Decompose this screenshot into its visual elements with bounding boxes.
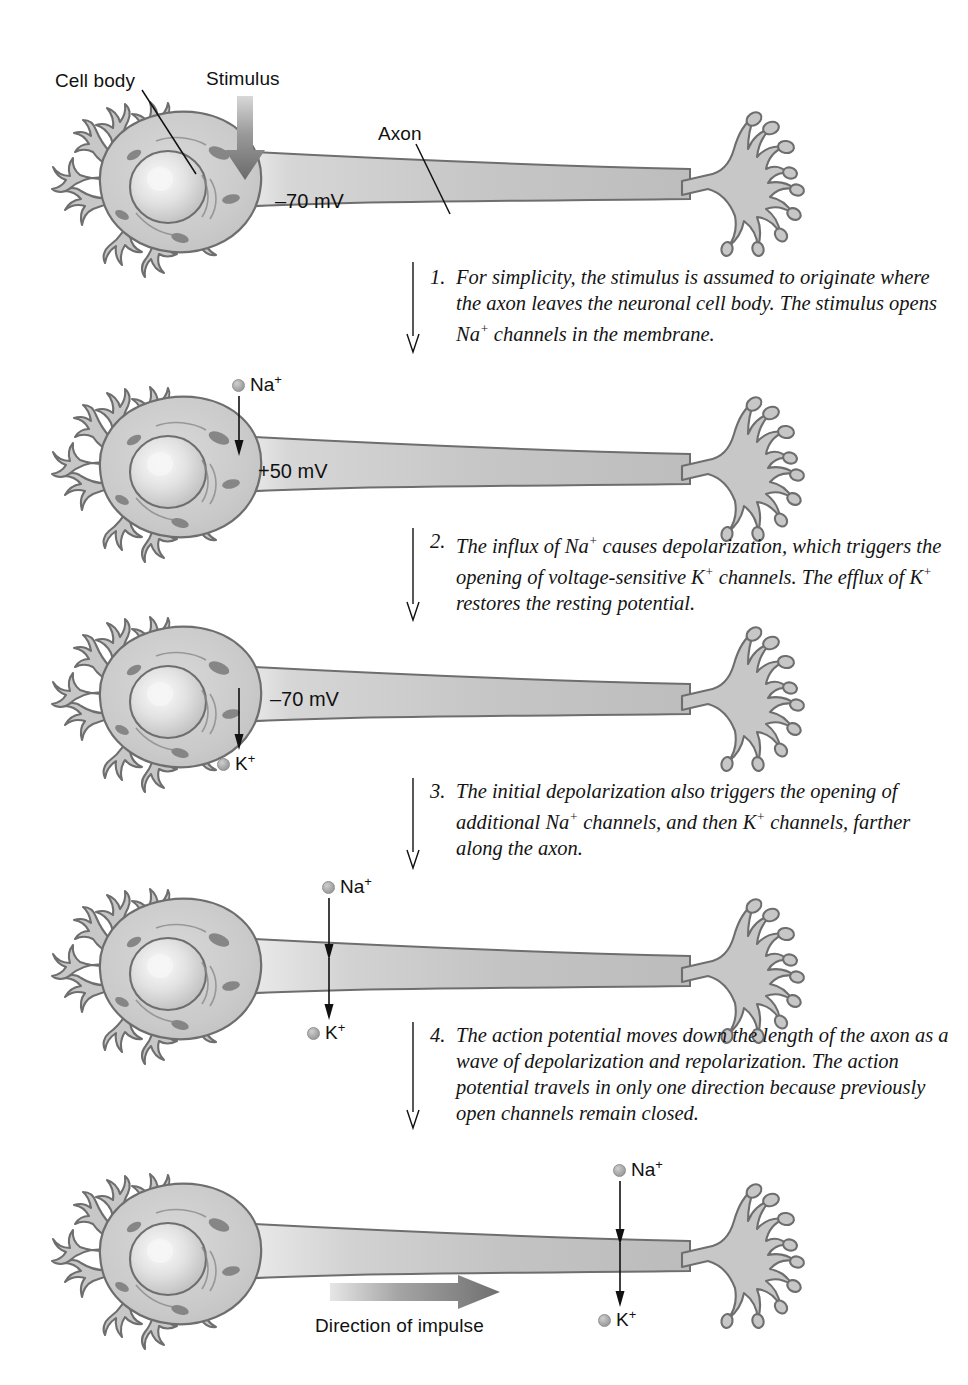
neuron-illustration-2 (50, 380, 910, 545)
leader-line-cell-body (140, 88, 210, 180)
step-text-1: For simplicity, the stimulus is assumed … (456, 264, 950, 347)
step-connector-1 (405, 262, 421, 354)
stimulus-arrow-icon (224, 96, 266, 182)
step-caption-4: 4. The action potential moves down the l… (430, 1022, 960, 1126)
panel-resting-state: Cell body Stimulus –70 mV Axon (0, 0, 968, 255)
sodium-influx-arrow-5 (612, 1181, 628, 1247)
sodium-ion-label-5: Na+ (631, 1157, 663, 1181)
step-caption-3: 3. The initial depolarization also trigg… (430, 778, 960, 861)
voltage-label-panel-1: –70 mV (275, 190, 344, 213)
potassium-efflux-arrow-5 (612, 1243, 628, 1309)
panel-propagation-terminal: Na+ K+ Direction of impulse (0, 1145, 968, 1385)
potassium-efflux-arrow-3 (231, 688, 247, 752)
label-cell-body: Cell body (55, 70, 135, 92)
label-direction-of-impulse: Direction of impulse (315, 1315, 484, 1337)
direction-of-impulse-arrow-icon (330, 1275, 502, 1311)
potassium-ion-label-5: K+ (616, 1307, 636, 1331)
sodium-ion-dot-2 (232, 379, 245, 392)
panel-depolarization: Na+ +50 mV (0, 360, 968, 525)
step-number-2: 2. (430, 528, 456, 554)
step-caption-1: 1. For simplicity, the stimulus is assum… (430, 264, 950, 347)
sodium-influx-arrow-2 (231, 396, 247, 458)
potassium-efflux-arrow-4 (321, 958, 337, 1022)
label-stimulus: Stimulus (206, 68, 280, 90)
neuron-illustration-3 (50, 610, 910, 775)
potassium-ion-dot-3 (217, 758, 230, 771)
potassium-ion-dot-4 (307, 1027, 320, 1040)
voltage-label-panel-2: +50 mV (258, 460, 327, 483)
step-text-3: The initial depolarization also triggers… (456, 778, 960, 861)
figure-canvas: Cell body Stimulus –70 mV Axon 1. For si… (0, 0, 968, 1385)
sodium-ion-label-4: Na+ (340, 874, 372, 898)
potassium-ion-dot-5 (598, 1314, 611, 1327)
step-text-4: The action potential moves down the leng… (456, 1022, 960, 1126)
sodium-ion-dot-4 (322, 881, 335, 894)
step-connector-4 (405, 1022, 421, 1130)
potassium-ion-label-4: K+ (325, 1020, 345, 1044)
sodium-influx-arrow-4 (321, 898, 337, 962)
step-number-3: 3. (430, 778, 456, 804)
panel-repolarization: –70 mV K+ (0, 600, 968, 790)
sodium-ion-dot-5 (613, 1164, 626, 1177)
voltage-label-panel-3: –70 mV (270, 688, 339, 711)
sodium-ion-label-2: Na+ (250, 372, 282, 396)
leader-line-axon (414, 142, 462, 218)
step-number-1: 1. (430, 264, 456, 290)
step-number-4: 4. (430, 1022, 456, 1048)
potassium-ion-label-3: K+ (235, 751, 255, 775)
step-connector-3 (405, 778, 421, 870)
